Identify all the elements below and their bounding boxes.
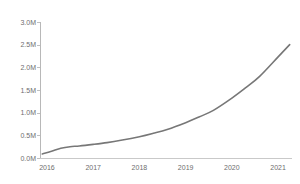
line-chart: 0.0M0.5M1.0M1.5M2.0M2.5M3.0M 20162017201… [0,0,300,184]
series-line-path [42,45,289,154]
series-line-layer [0,0,300,184]
